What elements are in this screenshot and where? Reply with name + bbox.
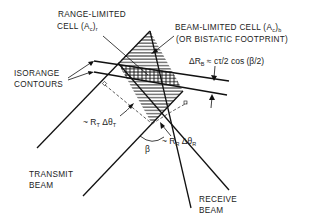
transmit-beam-label-line2: BEAM [29,181,53,190]
isorange-arrowhead-upper [88,61,94,66]
range-limited-label-line2: CELL (Ac)r [57,22,98,32]
rr-delta-theta-label: ~ RR ΔθR [162,136,196,147]
isorange-label-line2: CONTOURS [14,80,63,89]
receive-beam-label-line2: BEAM [199,206,223,215]
isorange-arrowhead-lower [88,71,94,75]
right-angle-mark-t [102,81,106,85]
receive-beam-label-line1: RECEIVE [199,195,237,204]
beam-limited-label-line1: BEAM-LIMITED CELL (Ac)b [175,23,282,33]
beta-label: β [145,144,150,154]
rt-delta-theta-label: ~ RT ΔθT [83,117,117,128]
beam-limited-label-line2: (OR BISTATIC FOOTPRINT) [176,35,288,44]
range-limited-label-line1: RANGE-LIMITED [58,10,126,19]
transmit-beam-label-line1: TRANSMIT [29,170,73,179]
bistatic-cell-diagram: RANGE-LIMITED CELL (Ac)r BEAM-LIMITED CE… [0,0,309,223]
isorange-label-line1: ISORANGE [14,69,60,78]
delta-rb-arrowhead-bottom [209,94,215,100]
beta-angle-arc [140,136,164,141]
delta-rb-formula: ΔRB ≈ cτ/2 cos (β/2) [189,56,264,67]
